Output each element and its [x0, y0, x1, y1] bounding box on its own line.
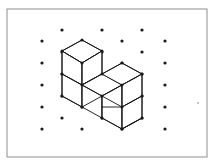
cube-vertex-dot	[141, 73, 144, 76]
lattice-dot	[60, 116, 63, 119]
cube-vertex-dot	[101, 73, 104, 76]
cube-vertex-dot	[81, 84, 84, 87]
lattice-dot	[163, 83, 166, 86]
cube-vertex-dot	[101, 95, 104, 98]
lattice-dot	[40, 105, 43, 108]
lattice-dot	[40, 127, 43, 130]
figure-canvas	[0, 0, 218, 166]
cube-vertex-dot	[81, 39, 84, 42]
cube-vertex-dot	[101, 50, 104, 53]
cube-vertex-dot	[121, 62, 124, 65]
lattice-dot	[140, 50, 143, 53]
lattice-dot	[60, 28, 63, 31]
lattice-dot	[140, 28, 143, 31]
cube-vertex-dot	[121, 84, 124, 87]
cube-vertex-dot	[61, 73, 64, 76]
lattice-dot	[163, 39, 166, 42]
cube-vertex-dot	[101, 117, 104, 120]
cube-vertex-dot	[81, 106, 84, 109]
lattice-dot	[163, 127, 166, 130]
lattice-dot	[100, 28, 103, 31]
cube-vertex-dot	[141, 95, 144, 98]
lattice-dot	[80, 127, 83, 130]
lattice-dot	[163, 105, 166, 108]
cube-vertex-dot	[61, 95, 64, 98]
cube-vertex-dot	[141, 117, 144, 120]
isometric-cube-figure	[0, 0, 218, 166]
stray-marks-group	[197, 102, 199, 104]
lattice-dot	[40, 83, 43, 86]
cube-vertex-dot	[121, 128, 124, 131]
cube-vertex-dot	[61, 50, 64, 53]
speck-right-margin	[197, 102, 199, 104]
lattice-dot	[40, 61, 43, 64]
cube-vertex-dot	[121, 106, 124, 109]
lattice-dot	[163, 61, 166, 64]
lattice-dot	[120, 39, 123, 42]
lattice-dot	[40, 39, 43, 42]
cube-vertex-dot	[81, 62, 84, 65]
